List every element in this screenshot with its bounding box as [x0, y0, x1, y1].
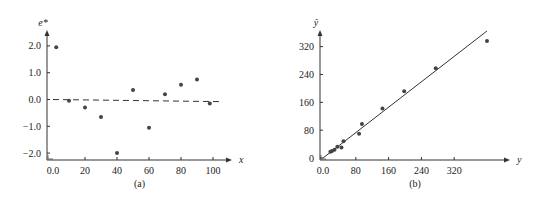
data-point [54, 45, 58, 49]
y-tick-label: 160 [299, 97, 314, 108]
y-axis-title: ŷ [313, 17, 319, 28]
x-tick-label: 60 [144, 165, 154, 176]
panel-a-residual-plot: 2.01.00.0−1.0−2.00.020406080100e*x(a) [23, 17, 244, 190]
y-axis-arrow [318, 30, 323, 36]
data-point [179, 83, 183, 87]
y-tick-label: 320 [299, 41, 314, 52]
data-point [163, 92, 167, 96]
data-point [380, 107, 384, 111]
y-tick-label: 0.0 [29, 94, 42, 105]
panel-b-fitted-vs-observed: 3202401608000.080160240320ŷy(b) [299, 17, 522, 190]
panel-caption: (b) [409, 178, 421, 190]
data-point [357, 132, 361, 136]
data-point [147, 126, 151, 130]
data-point [485, 39, 489, 43]
y-tick-label: −1.0 [23, 121, 41, 132]
y-tick-label: 2.0 [29, 40, 42, 51]
x-tick-label: 160 [381, 165, 396, 176]
origin-mark [48, 155, 53, 159]
data-point [115, 151, 119, 155]
y-axis-title: e* [38, 17, 47, 28]
data-point [434, 66, 438, 70]
zero-reference-dashed-line [53, 100, 221, 102]
data-point [83, 106, 87, 110]
x-tick-label: 40 [112, 165, 122, 176]
y-tick-label: −2.0 [23, 148, 41, 159]
data-point [67, 99, 71, 103]
data-point [360, 122, 364, 126]
x-axis-arrow [226, 158, 232, 163]
data-point [342, 139, 346, 143]
data-point [332, 148, 336, 152]
x-tick-label: 80 [176, 165, 186, 176]
data-point [339, 146, 343, 150]
x-tick-label: 100 [206, 165, 221, 176]
x-axis-title: y [516, 154, 522, 165]
x-axis-arrow [504, 158, 510, 163]
y-tick-label: 240 [299, 69, 314, 80]
x-tick-label: 240 [414, 165, 429, 176]
y-tick-label: 80 [304, 125, 314, 136]
figure: 2.01.00.0−1.0−2.00.020406080100e*x(a) 32… [0, 0, 536, 200]
x-axis-title: x [238, 154, 244, 165]
data-point [402, 89, 406, 93]
data-point [208, 102, 212, 106]
data-point [99, 115, 103, 119]
data-point [131, 88, 135, 92]
y-axis-arrow [45, 30, 50, 36]
x-tick-label: 20 [80, 165, 90, 176]
y-tick-label: 0 [309, 153, 314, 164]
panel-caption: (a) [134, 178, 145, 190]
x-tick-label: 0.0 [317, 165, 330, 176]
data-point [195, 77, 199, 81]
data-point [335, 145, 339, 149]
x-tick-label: 0.0 [47, 165, 60, 176]
fit-line [323, 31, 487, 158]
y-tick-label: 1.0 [29, 67, 42, 78]
x-tick-label: 80 [351, 165, 361, 176]
x-tick-label: 320 [447, 165, 462, 176]
